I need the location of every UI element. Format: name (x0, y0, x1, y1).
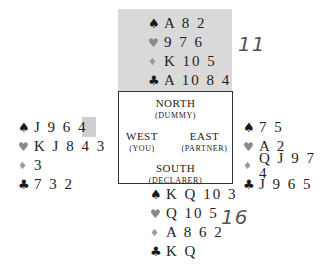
south-spades-row: ♠ K Q 10 3 (150, 185, 237, 204)
spade-icon: ♠ (150, 188, 166, 201)
seat-east-role: (PARTNER) (177, 144, 232, 153)
east-hand: ♠ 7 5 ♥ A 2 ♦ Q J 9 7 4 ♣ J 9 6 5 (243, 118, 331, 194)
south-hearts: Q 10 5 (166, 206, 219, 221)
club-icon: ♣ (150, 245, 166, 258)
south-clubs: K Q (166, 244, 197, 259)
north-diamonds: K 10 5 (164, 54, 217, 69)
seat-east-name: EAST (177, 130, 232, 142)
north-spades-row: ♠ A 8 2 (148, 14, 231, 33)
north-clubs-row: ♣ A 10 8 4 (148, 71, 231, 90)
north-diamonds-row: ♦ K 10 5 (148, 52, 231, 71)
seat-west-role: (YOU) (124, 144, 160, 153)
spade-icon: ♠ (148, 17, 164, 30)
highlighted-card[interactable]: 3 (97, 138, 107, 154)
east-clubs: J 9 6 5 (259, 177, 313, 192)
east-clubs-row: ♣ J 9 6 5 (243, 175, 331, 194)
north-hearts-row: ♥ 9 7 6 (148, 33, 231, 52)
north-hearts: 9 7 6 (164, 35, 204, 50)
west-spades-row: ♠ J 9 6 4 (18, 118, 106, 137)
east-spades-row: ♠ 7 5 (243, 118, 331, 137)
east-spades: 7 5 (259, 120, 284, 135)
seat-south: SOUTH (DECLARER) (119, 162, 232, 185)
seat-north-role: (DUMMY) (119, 111, 232, 120)
heart-icon: ♥ (150, 208, 166, 220)
west-hearts-cards: K J 8 4 (34, 138, 97, 154)
diamond-icon: ♦ (150, 228, 166, 238)
heart-icon: ♥ (243, 141, 259, 153)
diamond-icon: ♦ (18, 161, 34, 171)
west-clubs: 7 3 2 (34, 177, 74, 192)
heart-icon: ♥ (148, 37, 164, 49)
seat-south-name: SOUTH (119, 162, 232, 174)
club-icon: ♣ (18, 178, 34, 191)
west-hearts-row: ♥ K J 8 4 3 (18, 137, 106, 156)
seat-north-name: NORTH (119, 97, 232, 109)
spade-icon: ♠ (243, 121, 259, 134)
north-clubs: A 10 8 4 (164, 73, 231, 88)
north-points-annotation: 11 (238, 32, 265, 56)
seat-south-role: (DECLARER) (119, 176, 232, 185)
spade-icon: ♠ (18, 121, 34, 134)
seat-north: NORTH (DUMMY) (119, 97, 232, 120)
diamond-icon: ♦ (243, 161, 259, 171)
heart-icon: ♥ (18, 141, 34, 153)
seat-west: WEST (YOU) (124, 130, 160, 153)
south-spades: K Q 10 3 (166, 187, 237, 202)
south-clubs-row: ♣ K Q (150, 242, 237, 261)
diamond-icon: ♦ (148, 57, 164, 67)
club-icon: ♣ (148, 74, 164, 87)
north-spades: A 8 2 (164, 16, 207, 31)
east-diamonds-row: ♦ Q J 9 7 4 (243, 156, 331, 175)
west-clubs-row: ♣ 7 3 2 (18, 175, 106, 194)
north-hand: ♠ A 8 2 ♥ 9 7 6 ♦ K 10 5 ♣ A 10 8 4 (148, 14, 231, 90)
west-diamonds-row: ♦ 3 (18, 156, 106, 175)
table-compass-box: NORTH (DUMMY) WEST (YOU) EAST (PARTNER) … (118, 91, 233, 184)
south-points-annotation: 16 (221, 205, 248, 229)
south-diamonds: A 8 6 2 (166, 225, 224, 240)
west-hearts: K J 8 4 3 (34, 139, 106, 154)
west-diamonds: 3 (34, 158, 44, 173)
club-icon: ♣ (243, 178, 259, 191)
west-spades: J 9 6 4 (34, 120, 88, 135)
seat-east: EAST (PARTNER) (177, 130, 232, 153)
west-hand: ♠ J 9 6 4 ♥ K J 8 4 3 ♦ 3 ♣ 7 3 2 (18, 118, 106, 194)
seat-west-name: WEST (124, 130, 160, 142)
